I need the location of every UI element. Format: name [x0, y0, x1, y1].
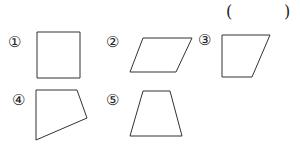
shape-3-trapezoid	[222, 35, 270, 77]
shapes-canvas	[0, 0, 300, 155]
shape-5-trapezoid	[130, 91, 182, 136]
shape-2-parallelogram	[130, 38, 192, 72]
shape-1-square	[37, 32, 80, 78]
shape-4-quadrilateral	[36, 90, 87, 140]
